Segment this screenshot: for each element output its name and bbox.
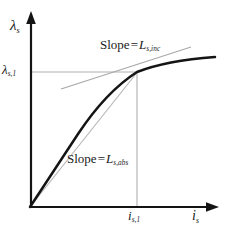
annotation-abs-text: Slope (67, 151, 97, 166)
x-axis-label: is (192, 209, 199, 223)
annotation-inc-subscript: s,inc (146, 45, 160, 53)
x-axis-label-subscript: s (196, 216, 199, 225)
x-tick-subscript: s,1 (132, 216, 141, 224)
saturation-curve-plot (0, 0, 230, 234)
annotation-inc-equals: = (131, 37, 138, 52)
annotation-incremental-inductance: Slope=Ls,inc (100, 38, 160, 51)
annotation-inc-text: Slope (100, 37, 130, 52)
annotation-absolute-inductance: Slope=Ls,abs (67, 152, 128, 165)
y-tick-symbol: λ (2, 62, 8, 77)
y-axis-label: λs (10, 18, 20, 33)
annotation-abs-subscript: s,abs (113, 159, 128, 167)
figure-container: λs λs,1 is,1 is Slope=Ls,inc Slope=Ls,ab… (0, 0, 230, 234)
y-tick-subscript: s,1 (8, 70, 17, 78)
y-axis-tick-label: λs,1 (2, 63, 16, 76)
x-axis-tick-label: is,1 (128, 209, 140, 222)
y-axis-label-subscript: s (17, 26, 20, 35)
annotation-abs-equals: = (98, 151, 105, 166)
y-axis-label-symbol: λ (10, 17, 17, 33)
